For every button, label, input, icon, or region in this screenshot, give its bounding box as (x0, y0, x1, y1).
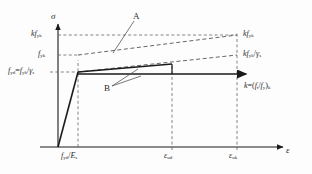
right-kfyk-sub: yk (249, 33, 254, 38)
x-tick-epsud-sub: ud (167, 155, 172, 160)
x-tick-label-yield-strain: fyd/Es (61, 152, 77, 160)
x-tick-label-eps-uk: εuk (229, 152, 237, 160)
y-tick-label-fyd: fyd=fyk/γs (8, 67, 34, 75)
x-tick-label-eps-ud: εud (164, 152, 172, 160)
leader-line-b-2 (112, 76, 141, 86)
y-tick-fyd-gamma-sub: s (32, 70, 34, 75)
curve-characteristic-a (78, 35, 237, 55)
y-tick-label-fyk: fyk (38, 50, 45, 58)
right-label-kfyk: kfyk (243, 30, 254, 38)
right-kfykg-sub: yk (249, 53, 254, 58)
callout-label-a: A (133, 12, 140, 21)
right-kfyk-main: kf (243, 29, 249, 38)
right-label-kfyk-gamma: kfyk/γs (243, 50, 261, 58)
k-eq-open: =( (248, 81, 255, 90)
k-definition-label: k=(ft/fy)k (244, 82, 270, 90)
callout-label-b: B (104, 84, 110, 93)
x-tick-es-sub: s (75, 155, 77, 160)
y-tick-fyd-num-sub: yk (22, 70, 27, 75)
curve-elastic-branch (58, 72, 78, 147)
x-axis-label: ε (286, 146, 290, 155)
x-tick-epsuk-sub: uk (232, 155, 237, 160)
stress-strain-figure: σ ε kfyk fyk fyd=fyk/γs kfyk kfyk/γs fyd… (0, 0, 312, 174)
y-axis-label: σ (51, 12, 55, 21)
curve-design-inclined (78, 64, 172, 72)
right-kfykg-gamma-sub: s (259, 53, 261, 58)
k-fy-sub: y (263, 85, 265, 90)
y-tick-fyk-sub: yk (40, 53, 45, 58)
y-tick-kfyk-sub: yk (37, 33, 42, 38)
leader-line-b-1 (112, 69, 138, 86)
y-tick-fyd-sub: yd (10, 70, 15, 75)
k-close-sub: k (268, 85, 270, 90)
right-kfykg-main: kf (243, 49, 249, 58)
x-tick-fyd-sub: yd (63, 155, 68, 160)
y-tick-kfyk-main: kf (31, 29, 37, 38)
y-tick-label-kfyk: kfyk (31, 30, 42, 38)
